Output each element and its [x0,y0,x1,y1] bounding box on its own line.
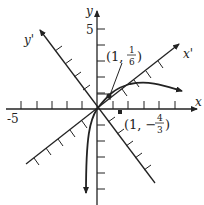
point-label-neg-4-thirds: (1, − 4 3 ) [124,113,170,135]
x-axis-label: x [195,95,202,109]
svg-text:3: 3 [157,125,163,135]
y-prime-axis-ticks [55,46,151,170]
svg-text:): ) [165,117,170,132]
svg-text:4: 4 [157,113,163,123]
svg-text:): ) [137,49,142,64]
x-tick-label: -5 [7,112,19,126]
y-axis-label: y [85,4,93,18]
x-prime-label: x' [183,47,193,61]
svg-text:1: 1 [129,45,135,55]
svg-text:6: 6 [129,57,135,67]
x-prime-axis [26,44,179,164]
y-prime-label: y' [23,33,34,47]
point-neg-4-thirds [118,110,122,114]
y-tick-label: 5 [86,23,94,37]
curve-lower-branch [86,109,97,193]
svg-text:(1,: (1, [106,49,123,64]
point-label-1-sixth: (1, 1 6 ) [106,45,142,67]
rotated-axes-diagram: x y x' y' -5 5 (1, 1 6 ) (1, − 4 3 ) [0,0,204,205]
svg-text:(1, −: (1, − [124,117,157,132]
